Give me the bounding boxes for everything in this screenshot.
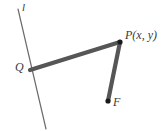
segment-pf [108, 42, 120, 101]
figure-canvas [0, 0, 168, 131]
geometry-figure: l Q P(x, y) F [0, 0, 168, 131]
segment-qp [30, 42, 120, 70]
point-f-dot [105, 98, 110, 103]
label-directrix-l: l [22, 2, 25, 13]
label-point-p: P(x, y) [125, 29, 157, 41]
label-point-q: Q [15, 61, 24, 73]
label-point-f: F [113, 96, 120, 108]
point-p-dot [117, 39, 122, 44]
